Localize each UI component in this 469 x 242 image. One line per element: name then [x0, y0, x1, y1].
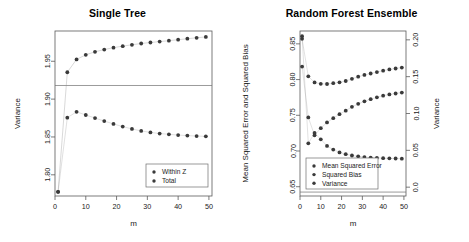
right-series-line — [302, 36, 402, 158]
right-y-tick-label-left: 0.80 — [289, 73, 298, 87]
left-legend-marker — [152, 179, 155, 182]
right-legend-marker — [312, 173, 315, 176]
right-legend-marker — [312, 182, 315, 185]
left-legend-marker — [152, 170, 155, 173]
left-data-point — [167, 39, 171, 43]
right-data-point — [325, 82, 329, 86]
panel-single-tree: Single Tree 1.801.851.901.9501020304050m… — [0, 0, 235, 242]
left-data-point — [93, 116, 97, 120]
left-data-point — [112, 46, 116, 50]
figure-root: Single Tree 1.801.851.901.9501020304050m… — [0, 0, 469, 242]
right-x-tick-label: 0 — [298, 202, 302, 211]
right-y-tick-label-left: 0.75 — [289, 108, 298, 122]
left-x-tick-label: 40 — [174, 202, 182, 211]
left-data-point — [112, 122, 116, 126]
left-data-point — [84, 113, 88, 117]
right-data-point — [381, 69, 385, 73]
right-data-point — [306, 74, 310, 78]
right-data-point — [394, 92, 398, 96]
left-y-tick-label: 1.80 — [44, 168, 53, 182]
left-x-tick-label: 20 — [113, 202, 121, 211]
right-data-point — [319, 137, 323, 141]
panel-random-forest: Random Forest Ensemble 0.650.700.750.800… — [234, 0, 469, 242]
right-data-point — [331, 116, 335, 120]
left-data-point — [130, 127, 134, 131]
right-y-tick-label-left: 0.70 — [289, 144, 298, 158]
right-data-point — [344, 109, 348, 113]
right-data-point — [363, 99, 367, 103]
right-data-point — [338, 150, 342, 154]
right-data-point — [331, 81, 335, 85]
left-legend-label: Within Z — [162, 168, 186, 175]
left-data-point — [185, 134, 189, 138]
right-data-point — [356, 75, 360, 79]
left-x-tick-label: 10 — [82, 202, 90, 211]
left-data-point — [121, 125, 125, 129]
right-y-tick-label-right: 0.0 — [412, 182, 421, 192]
right-data-point — [350, 105, 354, 109]
right-x-axis-label: m — [350, 219, 357, 228]
right-x-tick-label: 30 — [358, 202, 366, 211]
left-legend-label: Total — [162, 177, 176, 184]
left-data-point — [185, 37, 189, 41]
right-data-point — [400, 157, 404, 161]
right-x-tick-label: 50 — [400, 202, 408, 211]
right-data-point — [381, 94, 385, 98]
right-data-point — [375, 95, 379, 99]
left-data-point — [65, 70, 69, 74]
left-data-point — [65, 116, 69, 120]
right-y-axis-label-left: Mean Squared Error and Squared Bias — [241, 44, 250, 182]
right-y-tick-label-right: 0.15 — [412, 70, 421, 84]
right-y-tick-label-right: 0.10 — [412, 107, 421, 121]
right-data-point — [306, 141, 310, 145]
right-data-point — [344, 152, 348, 156]
left-data-point — [93, 50, 97, 54]
left-y-tick-label: 1.90 — [44, 92, 53, 106]
right-data-point — [369, 72, 373, 76]
left-data-point — [139, 129, 143, 133]
left-data-point — [75, 57, 79, 61]
right-data-point — [350, 154, 354, 158]
left-data-point — [176, 38, 180, 42]
left-data-point — [130, 43, 134, 47]
left-data-point — [149, 131, 153, 135]
right-data-point — [313, 131, 317, 135]
left-data-point — [195, 134, 199, 138]
right-legend-label: Mean Squared Error — [322, 162, 383, 170]
right-data-point — [400, 91, 404, 95]
right-y-axis-label-right: Variance — [432, 97, 441, 129]
right-x-tick-label: 40 — [379, 202, 387, 211]
right-data-point — [400, 66, 404, 70]
right-data-point — [338, 112, 342, 116]
right-series-line — [302, 67, 402, 136]
left-x-axis-label: m — [130, 219, 137, 228]
right-data-point — [381, 156, 385, 160]
left-data-point — [102, 119, 106, 123]
left-y-axis-label: Variance — [13, 97, 22, 129]
right-data-point — [331, 148, 335, 152]
right-data-point — [319, 82, 323, 86]
left-y-tick-label: 1.85 — [44, 130, 53, 144]
right-panel-plot: 0.650.700.750.800.850.00.050.100.150.200… — [234, 0, 469, 242]
right-y-tick-label-left: 0.65 — [289, 180, 298, 194]
left-data-point — [158, 40, 162, 44]
right-y-tick-label-left: 0.85 — [289, 37, 298, 51]
right-legend-label: Squared Bias — [322, 171, 362, 179]
right-data-point — [363, 73, 367, 77]
right-y-tick-label-right: 0.20 — [412, 33, 421, 47]
right-data-point — [350, 77, 354, 81]
left-x-tick-label: 0 — [53, 202, 57, 211]
right-data-point — [369, 97, 373, 101]
right-data-point — [325, 121, 329, 125]
left-panel-plot: 1.801.851.901.9501020304050mVarianceWith… — [0, 0, 235, 242]
left-data-point — [176, 133, 180, 137]
left-y-tick-label: 1.95 — [44, 54, 53, 68]
right-data-point — [344, 79, 348, 83]
right-legend-label: Variance — [322, 180, 348, 187]
right-data-point — [394, 157, 398, 161]
left-data-point — [102, 48, 106, 52]
right-data-point — [387, 93, 391, 97]
left-data-point — [56, 190, 60, 194]
right-data-point — [300, 34, 304, 38]
left-data-point — [158, 132, 162, 136]
